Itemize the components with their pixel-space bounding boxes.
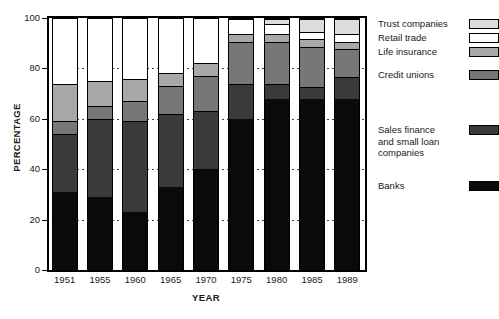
bar-segment-1989-credit[interactable]	[335, 49, 359, 77]
bar-segment-1965-sales[interactable]	[159, 114, 183, 187]
bar-segment-1985-life[interactable]	[300, 39, 324, 47]
legend-swatch	[469, 181, 499, 191]
bar-segment-1989-sales[interactable]	[335, 77, 359, 100]
legend-label: Retail trade	[378, 32, 427, 44]
legend-item-trust-companies[interactable]: Trust companies	[378, 18, 499, 30]
bar-1975[interactable]	[228, 18, 254, 270]
bar-segment-1951-life[interactable]	[53, 84, 77, 122]
bar-segment-1965-credit[interactable]	[159, 86, 183, 114]
bar-segment-1955-life[interactable]	[88, 81, 112, 106]
bar-segment-1960-life[interactable]	[123, 79, 147, 102]
legend-swatch	[469, 125, 499, 135]
bar-segment-1985-trust[interactable]	[300, 19, 324, 32]
legend-label: Banks	[378, 180, 404, 192]
bar-1951[interactable]	[52, 18, 78, 270]
x-axis-line	[47, 270, 367, 272]
bar-segment-1955-sales[interactable]	[88, 119, 112, 197]
y-tick-label-20: 20	[14, 215, 40, 225]
bar-segment-1960-sales[interactable]	[123, 121, 147, 212]
legend-label: Sales finance and small loan companies	[378, 124, 439, 159]
bar-segment-1960-banks[interactable]	[123, 212, 147, 270]
bar-1985[interactable]	[299, 18, 325, 270]
bar-segment-1985-retail[interactable]	[300, 32, 324, 40]
legend-item-retail-trade[interactable]: Retail trade	[378, 32, 499, 44]
y-tick-label-100: 100	[14, 13, 40, 23]
legend-item-credit-unions[interactable]: Credit unions	[378, 69, 499, 81]
bar-segment-1970-sales[interactable]	[194, 111, 218, 169]
bar-segment-1985-banks[interactable]	[300, 99, 324, 270]
bar-segment-1975-banks[interactable]	[229, 119, 253, 270]
legend-label: Credit unions	[378, 69, 434, 81]
legend: Trust companiesRetail tradeLife insuranc…	[378, 14, 499, 224]
bar-1960[interactable]	[122, 18, 148, 270]
bar-segment-1975-sales[interactable]	[229, 84, 253, 119]
bar-segment-1985-sales[interactable]	[300, 87, 324, 100]
legend-label: Trust companies	[378, 18, 448, 30]
legend-swatch	[469, 19, 499, 29]
bar-segment-1951-sales[interactable]	[53, 134, 77, 192]
bar-segment-1989-retail[interactable]	[335, 34, 359, 42]
x-tick-label-1989: 1989	[325, 274, 369, 285]
bar-segment-1951-banks[interactable]	[53, 192, 77, 270]
x-axis-title: YEAR	[47, 292, 365, 303]
bar-1989[interactable]	[334, 18, 360, 270]
bar-segment-1975-retail[interactable]	[229, 19, 253, 34]
bar-1965[interactable]	[158, 18, 184, 270]
bar-segment-1965-life[interactable]	[159, 73, 183, 86]
legend-item-life-insurance[interactable]: Life insurance	[378, 46, 499, 58]
bar-segment-1989-banks[interactable]	[335, 99, 359, 270]
bar-segment-1980-life[interactable]	[265, 34, 289, 42]
bar-segment-1955-banks[interactable]	[88, 197, 112, 270]
bar-1955[interactable]	[87, 18, 113, 270]
bar-segment-1960-credit[interactable]	[123, 101, 147, 121]
bar-segment-1975-life[interactable]	[229, 34, 253, 42]
legend-label: Life insurance	[378, 46, 437, 58]
bar-segment-1980-retail[interactable]	[265, 24, 289, 34]
chart-root: 020406080100 195119551960196519701975198…	[0, 0, 499, 319]
legend-item-banks[interactable]: Banks	[378, 180, 499, 192]
bar-segment-1980-sales[interactable]	[265, 84, 289, 99]
legend-swatch	[469, 70, 499, 80]
bar-segment-1980-credit[interactable]	[265, 42, 289, 85]
y-tick-label-80: 80	[14, 63, 40, 73]
bar-segment-1980-banks[interactable]	[265, 99, 289, 270]
bar-segment-1975-credit[interactable]	[229, 42, 253, 85]
bar-segment-1965-banks[interactable]	[159, 187, 183, 270]
y-axis-title: PERCENTAGE	[11, 93, 22, 183]
bar-segment-1970-banks[interactable]	[194, 169, 218, 270]
bar-segment-1955-credit[interactable]	[88, 106, 112, 119]
legend-item-sales-finance[interactable]: Sales finance and small loan companies	[378, 124, 499, 159]
bar-1980[interactable]	[264, 18, 290, 270]
bar-1970[interactable]	[193, 18, 219, 270]
bar-segment-1970-credit[interactable]	[194, 76, 218, 111]
plot-right-border	[365, 16, 367, 272]
plot-area	[47, 18, 365, 270]
legend-swatch	[469, 33, 499, 43]
legend-swatch	[469, 47, 499, 57]
y-axis-ticks: 020406080100	[0, 0, 44, 319]
bar-segment-1970-life[interactable]	[194, 63, 218, 76]
y-tick-label-0: 0	[14, 265, 40, 275]
bar-segment-1985-credit[interactable]	[300, 47, 324, 87]
bar-segment-1951-credit[interactable]	[53, 121, 77, 134]
bar-segment-1989-life[interactable]	[335, 42, 359, 50]
bar-segment-1989-trust[interactable]	[335, 19, 359, 34]
